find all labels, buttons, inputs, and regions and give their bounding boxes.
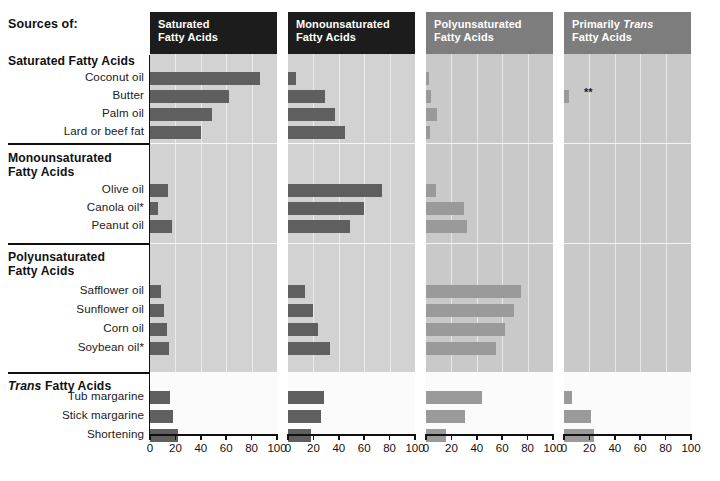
bar (150, 108, 212, 121)
axis-tick (175, 434, 177, 440)
bar (426, 108, 437, 121)
axis-tick-label: 0 (561, 442, 567, 454)
axis-line (426, 434, 553, 436)
bar (426, 202, 464, 215)
axis-tick-label: 60 (358, 442, 371, 454)
row-label: Olive oil (102, 182, 144, 195)
axis-tick (690, 434, 692, 440)
sources-of-title: Sources of: (8, 17, 78, 31)
bar (150, 285, 161, 298)
band-separator (564, 243, 691, 244)
bar (150, 323, 167, 336)
bar (288, 342, 330, 355)
axis-tick (665, 434, 667, 440)
axis-tick (338, 434, 340, 440)
axis-tick (476, 434, 478, 440)
group-divider (8, 243, 150, 245)
axis-tick (389, 434, 391, 440)
bar (288, 72, 296, 85)
axis-tick-label: 0 (147, 442, 153, 454)
panel-header: SaturatedFatty Acids (150, 12, 277, 54)
axis-tick (425, 434, 427, 440)
bar (150, 304, 164, 317)
bar (426, 410, 465, 423)
bar (288, 304, 313, 317)
axis-tick-label: 0 (423, 442, 429, 454)
group-divider (8, 143, 150, 145)
bar (150, 410, 173, 423)
axis-tick (589, 434, 591, 440)
gridline (553, 54, 554, 434)
axis-line (288, 434, 415, 436)
bar (150, 72, 260, 85)
axis-tick (501, 434, 503, 440)
x-axis: 020406080100 (426, 434, 553, 462)
group-divider (8, 372, 150, 374)
panel-header: Primarily TransFatty Acids (564, 12, 691, 54)
axis-tick (287, 434, 289, 440)
bar (288, 391, 324, 404)
bar (426, 342, 496, 355)
axis-tick-label: 100 (543, 442, 562, 454)
bar (150, 126, 201, 139)
row-label: Stick margarine (62, 408, 144, 421)
bar (288, 184, 382, 197)
trans-block-background (564, 372, 691, 434)
axis-tick-label: 80 (521, 442, 534, 454)
footnote-marker: ** (584, 87, 593, 97)
x-axis: 020406080100 (150, 434, 277, 462)
row-label: Tub margarine (68, 389, 144, 402)
axis-tick (251, 434, 253, 440)
axis-tick-label: 40 (608, 442, 621, 454)
bar (150, 342, 169, 355)
axis-tick-label: 60 (220, 442, 233, 454)
row-label: Palm oil (102, 106, 144, 119)
group-heading: PolyunsaturatedFatty Acids (8, 251, 105, 278)
row-label: Soybean oil* (78, 340, 144, 353)
axis-tick-label: 80 (383, 442, 396, 454)
row-label: Butter (112, 88, 144, 101)
gridline (691, 54, 692, 434)
row-label-column: Sources of: Saturated Fatty AcidsMonouns… (0, 0, 150, 455)
axis-tick (200, 434, 202, 440)
axis-tick-label: 60 (634, 442, 647, 454)
panel-header: MonounsaturatedFatty Acids (288, 12, 415, 54)
axis-tick (313, 434, 315, 440)
axis-line (150, 434, 277, 436)
bar (150, 220, 172, 233)
axis-tick-label: 60 (496, 442, 509, 454)
bar (288, 285, 305, 298)
panel-header: PolyunsaturatedFatty Acids (426, 12, 553, 54)
gridline (415, 54, 416, 434)
bar (426, 323, 505, 336)
axis-tick (225, 434, 227, 440)
axis-tick-label: 100 (267, 442, 286, 454)
axis-tick (552, 434, 554, 440)
axis-tick (276, 434, 278, 440)
axis-tick (451, 434, 453, 440)
bar (288, 202, 364, 215)
band-separator (426, 143, 553, 144)
axis-tick (614, 434, 616, 440)
panel-4: Primarily TransFatty Acids (564, 12, 691, 434)
bar (564, 410, 591, 423)
axis-tick-label: 100 (681, 442, 700, 454)
band-separator (150, 243, 277, 244)
gridline (277, 54, 278, 434)
fatty-acid-sources-chart: Sources of: Saturated Fatty AcidsMonouns… (0, 0, 720, 481)
row-label: Lard or beef fat (64, 124, 144, 137)
band-separator (288, 243, 415, 244)
row-label: Corn oil (103, 321, 144, 334)
bar (426, 220, 467, 233)
axis-tick-label: 40 (194, 442, 207, 454)
axis-tick (414, 434, 416, 440)
axis-tick-label: 40 (332, 442, 345, 454)
axis-tick-label: 80 (245, 442, 258, 454)
bar (426, 72, 429, 85)
axis-tick-label: 20 (445, 442, 458, 454)
axis-tick-label: 0 (285, 442, 291, 454)
bar (150, 184, 168, 197)
axis-tick (363, 434, 365, 440)
band-separator (150, 143, 277, 144)
bar (426, 391, 482, 404)
